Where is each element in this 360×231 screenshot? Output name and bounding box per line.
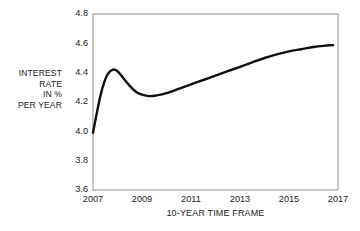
plot-frame bbox=[93, 14, 338, 190]
interest-rate-line-chart: INTEREST RATE IN % PER YEAR 3.6 3.8 4.0 … bbox=[0, 0, 360, 231]
interest-rate-curve bbox=[93, 45, 333, 133]
plot-area bbox=[0, 0, 360, 231]
x-axis-title: 10-YEAR TIME FRAME bbox=[93, 208, 338, 218]
